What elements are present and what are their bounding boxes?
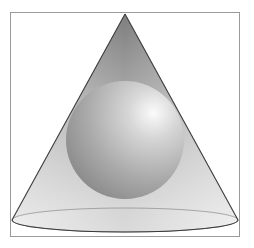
- cone-sphere-diagram: [0, 0, 254, 248]
- inscribed-sphere: [66, 81, 184, 199]
